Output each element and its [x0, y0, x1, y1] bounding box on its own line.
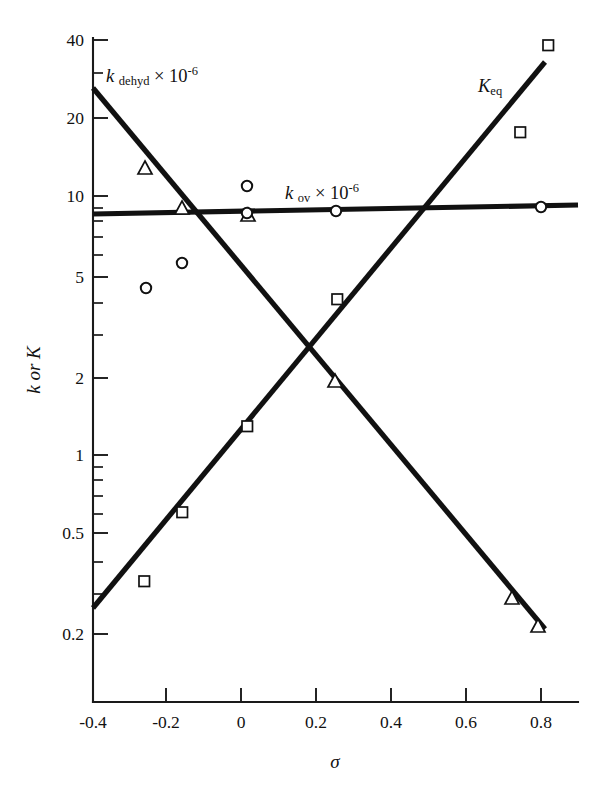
- series-label-k-dehyd-subscript: dehyd: [119, 74, 150, 88]
- markers-k-eq: [139, 40, 554, 587]
- x-tick-label: 0.8: [530, 712, 552, 732]
- data-point-circle: [331, 206, 341, 216]
- chart-canvas: 40 20 10 5 2 1 0.5 0.2 -0.4 -0.2 0 0.2 0…: [0, 0, 591, 806]
- x-tick-label: -0.4: [79, 712, 107, 732]
- y-axis-title-K: K: [23, 345, 44, 360]
- series-label-k-dehyd-mult: × 10: [154, 66, 188, 86]
- x-tick-label: 0.6: [455, 712, 477, 732]
- data-point-square: [515, 127, 526, 138]
- y-axis-major-ticks: [93, 40, 108, 634]
- x-tick-label: -0.2: [152, 712, 180, 732]
- x-axis-tick-labels: -0.4 -0.2 0 0.2 0.4 0.6 0.8: [79, 712, 552, 732]
- series-label-k-ov-subscript: ov: [298, 191, 311, 205]
- data-point-circle: [242, 181, 252, 191]
- y-axis-tick-labels: 40 20 10 5 2 1 0.5 0.2: [62, 30, 84, 644]
- x-axis-ticks: [166, 688, 541, 702]
- series-lines-group: [93, 62, 578, 629]
- y-tick-label: 2: [75, 368, 84, 388]
- y-tick-label: 40: [67, 30, 85, 50]
- y-tick-label: 5: [75, 267, 84, 287]
- series-label-k-ov-mult: × 10: [315, 183, 349, 203]
- data-point-circle: [242, 208, 252, 218]
- data-point-square: [177, 507, 188, 518]
- data-point-square: [242, 421, 253, 432]
- series-label-k-ov-exponent: -6: [349, 181, 359, 195]
- series-label-k-dehyd: k dehyd × 10-6: [106, 64, 198, 88]
- series-line-k-eq: [93, 62, 545, 608]
- y-tick-label: 20: [67, 108, 85, 128]
- y-tick-label: 10: [67, 186, 85, 206]
- figure-container: 40 20 10 5 2 1 0.5 0.2 -0.4 -0.2 0 0.2 0…: [0, 0, 591, 806]
- data-point-circle: [177, 258, 187, 268]
- series-line-k-dehyd: [93, 88, 545, 629]
- y-tick-label: 1: [75, 445, 84, 465]
- x-axis-title: σ: [330, 751, 340, 772]
- series-label-k-eq-subscript: eq: [490, 84, 503, 98]
- data-point-circle: [536, 202, 546, 212]
- markers-k-dehyd: [138, 161, 545, 632]
- y-axis-title: k or K: [23, 345, 44, 394]
- x-tick-label: 0.4: [380, 712, 402, 732]
- data-point-triangle: [138, 161, 152, 174]
- y-tick-label: 0.2: [62, 624, 84, 644]
- data-point-circle: [141, 283, 151, 293]
- x-tick-label: 0.2: [305, 712, 327, 732]
- data-point-square: [332, 294, 343, 305]
- x-tick-label: 0: [237, 712, 246, 732]
- y-axis-minor-ticks: [93, 73, 103, 594]
- y-tick-label: 0.5: [62, 523, 84, 543]
- series-label-k-eq: Keq: [477, 76, 503, 98]
- series-label-k-ov: k ov × 10-6: [285, 181, 359, 205]
- series-label-k-dehyd-exponent: -6: [188, 64, 198, 78]
- y-axis-title-group: k or K: [23, 345, 44, 394]
- data-point-square: [543, 40, 554, 51]
- data-point-square: [139, 576, 150, 587]
